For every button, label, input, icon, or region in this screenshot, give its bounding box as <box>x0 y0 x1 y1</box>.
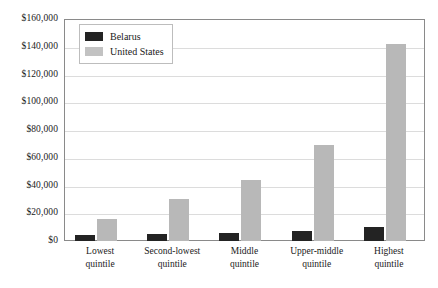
bar-belarus <box>75 235 95 241</box>
legend-swatch-united-states <box>85 47 103 56</box>
legend-item-united-states: United States <box>85 44 164 59</box>
bar-belarus <box>219 233 239 241</box>
bar-group <box>353 19 425 241</box>
y-axis-tick-label: $160,000 <box>0 13 58 23</box>
bar-united-states <box>169 199 189 241</box>
y-axis-tick-label: $100,000 <box>0 96 58 106</box>
bar-united-states <box>386 44 406 241</box>
x-axis: LowestquintileSecond-lowestquintileMiddl… <box>64 245 425 285</box>
y-axis-tick-label: $80,000 <box>0 124 58 134</box>
y-axis-tick-label: $0 <box>0 235 58 245</box>
bar-belarus <box>147 234 167 241</box>
bar-belarus <box>292 231 312 241</box>
x-axis-tick-label: Highestquintile <box>353 245 425 270</box>
y-axis-tick-label: $120,000 <box>0 69 58 79</box>
y-axis-tick-label: $20,000 <box>0 207 58 217</box>
bar-united-states <box>97 219 117 241</box>
x-axis-tick-label: Lowestquintile <box>64 245 136 270</box>
bar-united-states <box>314 145 334 241</box>
chart-legend: Belarus United States <box>79 24 173 64</box>
x-axis-tick-label: Middlequintile <box>208 245 280 270</box>
y-axis: $0$20,000$40,000$60,000$80,000$100,000$1… <box>0 0 58 288</box>
x-axis-tick-label: Upper-middlequintile <box>281 245 353 270</box>
bar-belarus <box>364 227 384 241</box>
bar-chart: $0$20,000$40,000$60,000$80,000$100,000$1… <box>0 0 438 288</box>
legend-label-united-states: United States <box>110 46 164 57</box>
bar-group <box>281 19 353 241</box>
legend-item-belarus: Belarus <box>85 29 164 44</box>
y-axis-tick-label: $140,000 <box>0 41 58 51</box>
legend-label-belarus: Belarus <box>110 31 141 42</box>
y-axis-tick-label: $40,000 <box>0 180 58 190</box>
bar-group <box>208 19 280 241</box>
y-axis-tick-label: $60,000 <box>0 152 58 162</box>
legend-swatch-belarus <box>85 32 103 41</box>
bar-united-states <box>241 180 261 241</box>
x-axis-tick-label: Second-lowestquintile <box>136 245 208 270</box>
